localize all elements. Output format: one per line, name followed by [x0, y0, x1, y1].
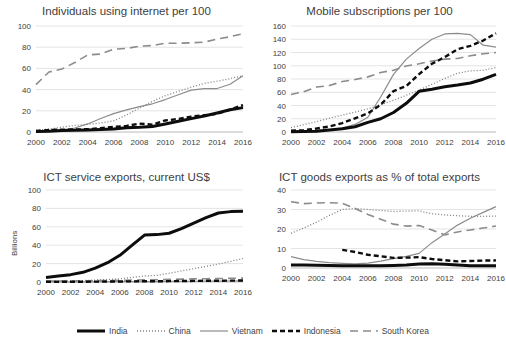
- x-tick-label: 2006: [105, 138, 123, 147]
- x-tick-label: 2004: [333, 138, 351, 147]
- series-line-south-korea: [36, 34, 243, 85]
- x-tick-label: 2008: [385, 138, 403, 147]
- y-tick-label: 100: [18, 22, 32, 31]
- legend-swatch-long-dashed-gray: [350, 326, 378, 336]
- x-tick-label: 2016: [234, 138, 252, 147]
- legend-item-china[interactable]: China: [137, 326, 191, 336]
- y-tick-label: 20: [22, 107, 31, 116]
- y-tick-label: 80: [277, 75, 286, 84]
- y-tick-label: 80: [22, 43, 31, 52]
- chart-title-ict-goods: ICT goods exports as % of total exports: [253, 168, 506, 184]
- x-tick-label: 2004: [79, 138, 97, 147]
- series-line-vietnam: [36, 76, 243, 132]
- x-tick-label: 2016: [234, 288, 252, 297]
- chart-title-mobile: Mobile subscriptions per 100: [253, 2, 506, 18]
- x-tick-label: 2016: [487, 274, 505, 283]
- series-line-india: [291, 74, 496, 131]
- x-tick-label: 2004: [86, 288, 104, 297]
- y-tick-label: 40: [32, 241, 41, 250]
- legend-label: China: [169, 326, 191, 336]
- x-tick-label: 2012: [185, 288, 203, 297]
- legend-label: India: [109, 326, 127, 336]
- chart-legend: IndiaChinaVietnamIndonesiaSouth Korea: [0, 313, 506, 348]
- chart-panel-mobile: Mobile subscriptions per 100 02040608010…: [253, 2, 506, 164]
- x-tick-label: 2000: [37, 288, 55, 297]
- chart-svg-mobile: 0204060801001201401602000200220042006200…: [253, 18, 506, 158]
- y-tick-label: 10: [277, 245, 286, 254]
- legend-item-vietnam[interactable]: Vietnam: [200, 326, 263, 336]
- x-tick-label: 2000: [27, 138, 45, 147]
- x-tick-label: 2010: [410, 138, 428, 147]
- plot-mobile: 0204060801001201401602000200220042006200…: [253, 18, 506, 158]
- series-line-vietnam: [291, 207, 496, 264]
- y-tick-label: 40: [22, 86, 31, 95]
- y-tick-label: 100: [273, 62, 287, 71]
- y-tick-label: 140: [273, 35, 287, 44]
- x-tick-label: 2008: [385, 274, 403, 283]
- legend-item-india[interactable]: India: [77, 326, 127, 336]
- x-tick-label: 2008: [136, 288, 154, 297]
- x-tick-label: 2006: [111, 288, 129, 297]
- chart-svg-internet: 0204060801002000200220042006200820102012…: [0, 18, 253, 158]
- y-tick-label: 60: [22, 64, 31, 73]
- x-tick-label: 2002: [53, 138, 71, 147]
- plot-internet: 0204060801002000200220042006200820102012…: [0, 18, 253, 158]
- x-tick-label: 2014: [461, 138, 479, 147]
- series-line-india: [291, 264, 496, 266]
- x-tick-label: 2010: [410, 274, 428, 283]
- plot-ict-goods: 0102030402000200220042006200820102012201…: [253, 184, 506, 292]
- x-tick-label: 2006: [359, 274, 377, 283]
- legend-item-indonesia[interactable]: Indonesia: [272, 326, 341, 336]
- y-tick-label: 0: [37, 278, 42, 287]
- y-tick-label: 20: [277, 115, 286, 124]
- series-line-china: [36, 76, 243, 130]
- y-tick-label: 30: [277, 206, 286, 215]
- x-tick-label: 2000: [282, 274, 300, 283]
- chart-panel-ict-services: ICT service exports, current US$ Billion…: [0, 168, 253, 313]
- chart-svg-ict-services: 0204060801002000200220042006200820102012…: [0, 184, 253, 306]
- chart-panel-ict-goods: ICT goods exports as % of total exports …: [253, 168, 506, 313]
- y-tick-label: 160: [273, 22, 287, 31]
- y-tick-label: 0: [27, 128, 32, 137]
- legend-swatch-thick-dashed-black: [272, 326, 300, 336]
- x-tick-label: 2002: [308, 274, 326, 283]
- x-tick-label: 2010: [156, 138, 174, 147]
- x-tick-label: 2014: [208, 138, 226, 147]
- series-line-indonesia: [342, 250, 496, 262]
- series-line-india: [36, 108, 243, 132]
- y-tick-label: 0: [282, 128, 287, 137]
- y-tick-label: 120: [273, 49, 287, 58]
- legend-label: Vietnam: [232, 326, 263, 336]
- x-tick-label: 2012: [436, 274, 454, 283]
- y-tick-label: 80: [32, 204, 41, 213]
- series-line-indonesia: [291, 33, 496, 131]
- x-tick-label: 2002: [308, 138, 326, 147]
- y-axis-label-billions: Billions: [10, 231, 19, 256]
- legend-swatch-fine-dotted-gray: [137, 326, 165, 336]
- series-line-south-korea: [291, 202, 496, 235]
- x-tick-label: 2014: [461, 274, 479, 283]
- chart-svg-ict-goods: 0102030402000200220042006200820102012201…: [253, 184, 506, 292]
- x-tick-label: 2012: [436, 138, 454, 147]
- x-tick-label: 2016: [487, 138, 505, 147]
- x-tick-label: 2014: [209, 288, 227, 297]
- x-tick-label: 2010: [160, 288, 178, 297]
- series-line-india: [46, 211, 243, 277]
- chart-title-ict-services: ICT service exports, current US$: [0, 168, 253, 184]
- y-tick-label: 40: [277, 102, 286, 111]
- legend-swatch-thick-solid-black: [77, 326, 105, 336]
- y-tick-label: 20: [32, 260, 41, 269]
- x-tick-label: 2006: [359, 138, 377, 147]
- ict-indicators-figure: Individuals using internet per 100 02040…: [0, 0, 506, 348]
- x-tick-label: 2002: [62, 288, 80, 297]
- series-line-china: [46, 259, 243, 282]
- legend-item-south-korea[interactable]: South Korea: [350, 326, 429, 336]
- chart-panel-internet: Individuals using internet per 100 02040…: [0, 2, 253, 164]
- y-tick-label: 100: [28, 186, 42, 195]
- legend-swatch-thin-solid-gray: [200, 326, 228, 336]
- y-tick-label: 40: [277, 186, 286, 195]
- x-tick-label: 2004: [333, 274, 351, 283]
- y-tick-label: 0: [282, 264, 287, 273]
- x-tick-label: 2008: [131, 138, 149, 147]
- legend-label: Indonesia: [304, 326, 341, 336]
